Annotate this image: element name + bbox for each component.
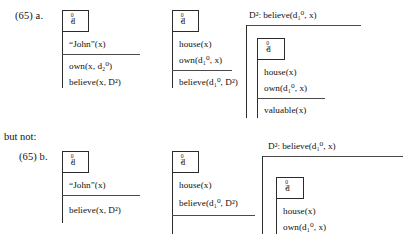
- drs-condition: own(x, d₂⁰): [69, 62, 112, 71]
- referent-subscript: 2: [285, 185, 288, 191]
- referent-symbol: d02: [181, 158, 191, 167]
- drs-condition: house(x): [179, 181, 212, 190]
- referent-subscript: 2: [181, 18, 184, 24]
- drs-box-a-col3-inner: d02 house(x) own(d₁⁰, x) valuable(x): [257, 38, 331, 118]
- drs-condition: believe(d₁⁰, D²): [179, 78, 238, 87]
- drs-divider-rule: [62, 54, 140, 55]
- drs-referent-head-b-col1: d01: [62, 151, 89, 173]
- referent-subscript: 2: [266, 46, 269, 52]
- referent-subscript: 1: [71, 18, 74, 24]
- drs-condition: own(d₁⁰, x): [264, 84, 307, 93]
- outer-bracket-top-a: [246, 25, 361, 26]
- drs-referent-head-a-col3: d02: [257, 38, 285, 60]
- drs-condition: house(x): [264, 68, 297, 77]
- drs-condition: house(x): [179, 40, 212, 49]
- outer-bracket-left-a: [246, 25, 247, 118]
- drs-condition: own(d₁⁰, x): [179, 56, 222, 65]
- drs-condition: own(d₁⁰, x): [283, 223, 326, 232]
- outer-bracket-top-b: [262, 156, 403, 157]
- outer-structure-label-b: D²: believe(d₁⁰, x): [268, 142, 336, 151]
- drs-divider-rule: [257, 98, 325, 99]
- drs-box-b-col2: d02 house(x) believe(d₁⁰, D²): [172, 151, 255, 234]
- drs-divider-rule: [172, 70, 232, 71]
- drs-box-b-col1: d01 “John”(x) believe(x, D²): [62, 151, 140, 223]
- drs-condition: “John”(x): [69, 40, 106, 49]
- referent-symbol: d02: [285, 184, 295, 193]
- referent-symbol: d02: [181, 17, 191, 26]
- referent-symbol: d01: [71, 158, 81, 167]
- drs-condition: believe(x, D²): [69, 206, 121, 215]
- page-canvas: (65) a. d01 “John”(x) own(x, d₂⁰) believ…: [0, 0, 403, 234]
- drs-condition: “John”(x): [69, 181, 106, 190]
- drs-referent-head-b-col3: d02: [276, 177, 304, 199]
- drs-condition: believe(x, D²): [69, 78, 121, 87]
- drs-divider-rule: [62, 195, 140, 196]
- drs-box-b-col3-inner: d02 house(x) own(d₁⁰, x): [276, 177, 350, 234]
- example-number-65a: (65) a.: [15, 10, 43, 21]
- drs-divider-rule: [172, 215, 255, 216]
- drs-box-a-col1: d01 “John”(x) own(x, d₂⁰) believe(x, D²): [62, 10, 140, 88]
- referent-symbol: d02: [266, 45, 276, 54]
- drs-condition: house(x): [283, 207, 316, 216]
- but-not-label: but not:: [4, 131, 36, 142]
- outer-structure-label-a: D²: believe(d₁⁰, x): [249, 11, 317, 20]
- outer-bracket-left-b: [262, 156, 263, 234]
- referent-subscript: 2: [181, 159, 184, 165]
- drs-condition: valuable(x): [264, 106, 306, 115]
- drs-referent-head-b-col2: d02: [172, 151, 199, 173]
- referent-symbol: d01: [71, 17, 81, 26]
- drs-referent-head-a-col2: d02: [172, 10, 199, 32]
- referent-subscript: 1: [71, 159, 74, 165]
- example-number-65b: (65) b.: [19, 151, 48, 162]
- drs-referent-head-a-col1: d01: [62, 10, 89, 32]
- drs-condition: believe(d₁⁰, D²): [179, 199, 238, 208]
- drs-box-a-col2: d02 house(x) own(d₁⁰, x) believe(d₁⁰, D²…: [172, 10, 240, 88]
